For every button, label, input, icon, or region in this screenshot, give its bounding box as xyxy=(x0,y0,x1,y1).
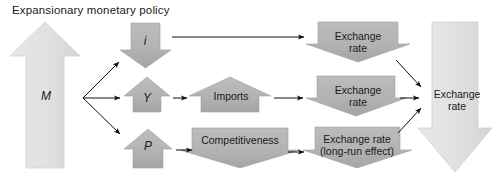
node-imports xyxy=(189,77,271,112)
diagram-canvas xyxy=(0,0,500,182)
node-exchange-rate-mid xyxy=(306,76,406,116)
node-exchange-rate-longrun xyxy=(303,127,412,168)
node-price-level xyxy=(124,129,172,168)
node-output xyxy=(124,77,170,112)
node-money-supply xyxy=(10,22,80,168)
connector-m-to-p xyxy=(83,98,120,134)
node-competitiveness xyxy=(180,128,300,168)
connector-m-to-i xyxy=(83,62,119,98)
node-exchange-rate-result xyxy=(418,22,492,172)
node-interest-rate xyxy=(120,23,171,68)
monetary-policy-flow-diagram: Expansionary monetary policy M i Y P Imp… xyxy=(0,0,500,182)
node-exchange-rate-top xyxy=(306,22,410,62)
connector-exchange-rate-top-to-result xyxy=(396,60,421,87)
connector-exchange-rate-longrun-to-result xyxy=(398,108,421,133)
